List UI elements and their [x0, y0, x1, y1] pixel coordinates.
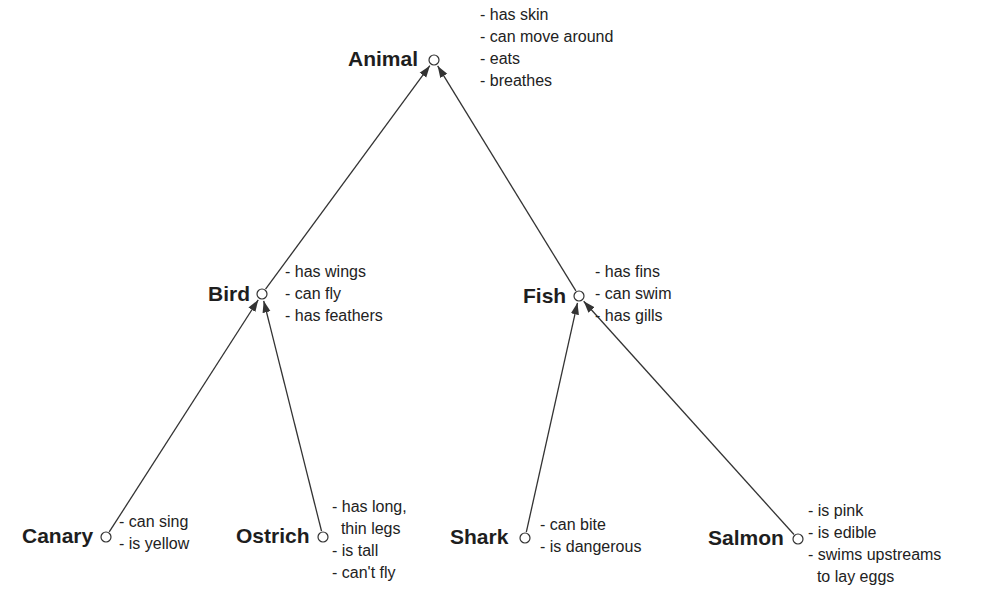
node-salmon-properties: - is pink - is edible - swims upstreams …: [808, 500, 941, 588]
node-animal-properties: - has skin - can move around - eats - br…: [480, 4, 613, 92]
node-bird-circle-icon: [257, 289, 267, 299]
node-salmon-label: Salmon: [708, 526, 784, 550]
node-shark-circle-icon: [520, 533, 530, 543]
node-shark-properties: - can bite - is dangerous: [540, 514, 641, 558]
node-animal-label: Animal: [348, 47, 418, 71]
node-shark-label: Shark: [450, 525, 508, 549]
node-fish-circle-icon: [574, 291, 584, 301]
node-salmon-circle-icon: [793, 534, 803, 544]
node-bird-properties: - has wings - can fly - has feathers: [285, 261, 383, 327]
edge-bird-to-animal: [266, 66, 430, 290]
edge-fish-to-animal: [438, 66, 576, 291]
node-ostrich-properties: - has long, thin legs - is tall - can't …: [332, 496, 407, 584]
node-canary-circle-icon: [101, 532, 111, 542]
node-canary-properties: - can sing - is yellow: [119, 511, 189, 555]
edge-ostrich-to-bird: [264, 301, 322, 531]
node-ostrich-circle-icon: [318, 532, 328, 542]
edge-canary-to-bird: [109, 300, 258, 532]
node-animal-circle-icon: [429, 55, 439, 65]
node-fish-properties: - has fins - can swim - has gills: [595, 261, 671, 327]
node-fish-label: Fish: [523, 284, 566, 308]
edge-salmon-to-fish: [584, 301, 794, 534]
edge-shark-to-fish: [526, 303, 577, 532]
node-ostrich-label: Ostrich: [236, 524, 310, 548]
node-bird-label: Bird: [208, 282, 250, 306]
node-canary-label: Canary: [22, 524, 93, 548]
